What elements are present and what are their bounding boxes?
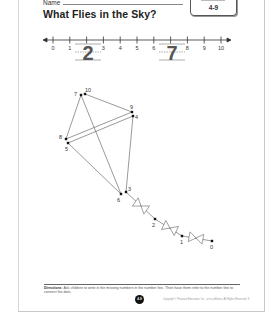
connect-line-5-6 [68,143,121,194]
dot-label-6: 6 [117,197,120,203]
directions: Directions: Ask children to write in the… [44,284,240,295]
tick-label-1: 1 [68,45,71,51]
tick-label-5: 5 [135,45,138,51]
connect-line-9-10 [85,94,132,112]
connect-line-4-5 [68,116,133,143]
tail-bows [132,198,203,244]
arrow-right-icon [227,38,231,42]
dot-label-10: 10 [85,87,91,93]
dot-label-2: 2 [152,222,155,228]
written-number-7: 7 [166,42,177,64]
dot-label-5: 5 [65,146,68,152]
dot-9 [131,111,133,113]
connect-line-7-8 [66,95,81,139]
dot-label-9: 9 [130,104,133,110]
directions-label: Directions [44,286,62,290]
tick-label-6: 6 [152,45,155,51]
dot-5 [67,142,69,144]
dot-6 [120,193,122,195]
dot-label-0: 0 [210,244,213,250]
number-line [43,37,231,44]
dot-label-8: 8 [59,134,62,140]
dot-label-3: 3 [128,186,131,192]
tick-label-4: 4 [119,45,122,51]
dot-label-4: 4 [135,114,138,120]
dot-label-1: 1 [180,239,183,245]
kite-labels: 012345678910 [59,87,213,250]
tick-label-8: 8 [186,45,189,51]
tick-label-0: 0 [51,45,54,51]
bow-icon [188,232,204,244]
kite-dots [65,93,213,242]
worksheet-art: 0134568910 2 7 012345678910 [0,0,279,316]
dot-8 [65,138,67,140]
kite-lines [66,94,212,241]
dot-10 [84,93,86,95]
tick-label-10: 10 [218,45,224,51]
dot-7 [80,94,82,96]
dot-label-7: 7 [74,91,77,97]
dot-0 [211,240,213,242]
connect-line-3-4 [126,116,133,192]
directions-text: Ask children to write in the missing num… [44,286,233,294]
copyright-text: Copyright © Pearson Education, Inc., or … [163,298,250,301]
dot-3 [125,191,127,193]
tick-label-3: 3 [102,45,105,51]
bow-icon [162,221,179,236]
connect-line-8-9 [66,112,132,139]
dot-1 [181,235,183,237]
arrow-left-icon [43,38,47,42]
dot-2 [154,218,156,220]
written-number-2: 2 [82,42,93,64]
connect-line-6-7 [81,95,121,194]
page-number-badge: 4-9 [135,295,144,304]
dot-4 [132,115,134,117]
tick-label-9: 9 [203,45,206,51]
